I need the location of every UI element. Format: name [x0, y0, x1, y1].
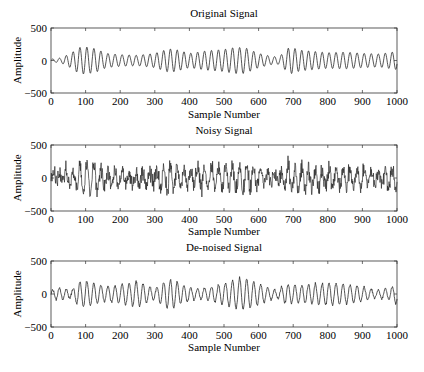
subplot-title: Original Signal	[190, 7, 258, 19]
x-tick-label: 900	[354, 329, 371, 341]
y-axis-label: Amplitude	[11, 154, 23, 201]
x-tick-label: 600	[250, 95, 267, 107]
x-tick-label: 900	[354, 213, 371, 225]
x-axis-label: Sample Number	[188, 341, 260, 353]
x-tick-label: 200	[112, 95, 129, 107]
x-tick-label: 100	[77, 213, 94, 225]
x-tick-label: 700	[285, 213, 302, 225]
x-tick-label: 100	[77, 329, 94, 341]
figure: 01002003004005006007008009001000−5000500…	[0, 0, 424, 372]
signal-line-denoised	[51, 277, 397, 310]
x-tick-label: 700	[285, 329, 302, 341]
x-tick-label: 1000	[386, 95, 409, 107]
subplot-original-signal: 01002003004005006007008009001000−5000500…	[11, 7, 409, 120]
y-axis-label: Amplitude	[11, 37, 23, 84]
x-tick-label: 600	[250, 329, 267, 341]
x-tick-label: 700	[285, 95, 302, 107]
subplot-title: Noisy Signal	[195, 124, 252, 136]
x-tick-label: 400	[181, 329, 198, 341]
y-tick-label: −500	[24, 321, 47, 333]
y-tick-label: 0	[42, 172, 48, 184]
x-tick-label: 500	[216, 95, 233, 107]
y-tick-label: 500	[31, 255, 48, 267]
x-tick-label: 800	[320, 213, 337, 225]
y-tick-label: −500	[24, 87, 47, 99]
x-axis-label: Sample Number	[188, 225, 260, 237]
x-tick-label: 200	[112, 213, 129, 225]
x-tick-label: 0	[48, 329, 54, 341]
y-tick-label: 500	[31, 22, 48, 34]
y-tick-label: 0	[42, 288, 48, 300]
x-tick-label: 500	[216, 329, 233, 341]
y-tick-label: 500	[31, 139, 48, 151]
y-axis-label: Amplitude	[11, 270, 23, 317]
x-tick-label: 300	[147, 329, 164, 341]
subplot-noisy-signal: 01002003004005006007008009001000−5000500…	[11, 124, 409, 237]
x-tick-label: 100	[77, 95, 94, 107]
x-tick-label: 200	[112, 329, 129, 341]
x-tick-label: 300	[147, 213, 164, 225]
x-tick-label: 1000	[386, 213, 409, 225]
x-tick-label: 600	[250, 213, 267, 225]
subplot-title: De-noised Signal	[186, 241, 262, 253]
x-tick-label: 400	[181, 213, 198, 225]
x-tick-label: 300	[147, 95, 164, 107]
x-tick-label: 800	[320, 329, 337, 341]
x-tick-label: 800	[320, 95, 337, 107]
x-tick-label: 0	[48, 95, 54, 107]
x-tick-label: 900	[354, 95, 371, 107]
signal-line-noisy	[51, 156, 397, 197]
x-tick-label: 1000	[386, 329, 409, 341]
x-axis-label: Sample Number	[188, 108, 260, 120]
x-tick-label: 400	[181, 95, 198, 107]
y-tick-label: −500	[24, 205, 47, 217]
x-tick-label: 500	[216, 213, 233, 225]
y-tick-label: 0	[42, 55, 48, 67]
signal-line-original	[51, 47, 397, 74]
x-tick-label: 0	[48, 213, 54, 225]
subplot-denoised-signal: 01002003004005006007008009001000−5000500…	[11, 241, 409, 353]
